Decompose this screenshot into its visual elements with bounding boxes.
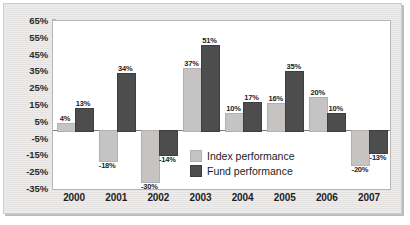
y-axis-tick-label: -35% <box>26 183 48 194</box>
legend-swatch-fund-icon <box>190 165 202 177</box>
bar-group: 4%13% <box>53 21 95 189</box>
bar-value-label: 10% <box>321 104 351 113</box>
bar-value-label: 20% <box>303 88 333 97</box>
bar-value-label: 35% <box>279 62 309 71</box>
bar-value-label: -13% <box>363 153 393 162</box>
bar-value-label: 51% <box>194 36 224 45</box>
bar-fund-2000[interactable] <box>75 108 94 132</box>
bar-index-2001[interactable] <box>99 130 118 162</box>
x-axis-tick-label: 2003 <box>179 192 221 203</box>
bar-fund-2007[interactable] <box>369 130 388 154</box>
bar-fund-2002[interactable] <box>159 130 178 156</box>
bar-group: 20%10% <box>306 21 348 189</box>
legend-item-index: Index performance <box>190 148 295 163</box>
x-axis-tick-label: 2006 <box>306 192 348 203</box>
legend-swatch-index-icon <box>190 150 202 162</box>
x-axis-tick-label: 2004 <box>222 192 264 203</box>
bar-group: -30%-14% <box>137 21 179 189</box>
y-axis-tick-label: -15% <box>26 149 48 160</box>
x-axis-tick-label: 2001 <box>95 192 137 203</box>
y-axis: 65%55%45%35%25%15%5%-5%-15%-25%-35% <box>4 20 52 190</box>
bar-value-label: -30% <box>134 182 164 191</box>
bar-group: -18%34% <box>95 21 137 189</box>
legend-label-index: Index performance <box>207 150 295 162</box>
bar-chart-figure: 65%55%45%35%25%15%5%-5%-15%-25%-35% 4%13… <box>0 0 410 225</box>
bar-fund-2004[interactable] <box>243 102 262 133</box>
legend-label-fund: Fund performance <box>207 165 293 177</box>
bar-index-2003[interactable] <box>183 68 202 132</box>
x-axis-tick-label: 2007 <box>348 192 390 203</box>
y-axis-tick-label: -5% <box>31 132 48 143</box>
bar-value-label: -14% <box>152 155 182 164</box>
y-axis-tick-label: 65% <box>29 15 48 26</box>
x-axis: 20002001200220032004200520062007 <box>53 192 390 208</box>
y-axis-tick-label: -25% <box>26 166 48 177</box>
bar-value-label: 34% <box>110 64 140 73</box>
y-axis-tick-label: 15% <box>29 99 48 110</box>
bar-fund-2005[interactable] <box>285 71 304 132</box>
bar-index-2006[interactable] <box>309 97 328 133</box>
bar-fund-2003[interactable] <box>201 45 220 133</box>
x-axis-tick-label: 2005 <box>264 192 306 203</box>
bar-fund-2006[interactable] <box>327 113 346 132</box>
y-axis-tick-label: 25% <box>29 82 48 93</box>
legend-item-fund: Fund performance <box>190 163 295 178</box>
y-axis-tick-label: 45% <box>29 48 48 59</box>
y-axis-tick-label: 55% <box>29 31 48 42</box>
x-axis-tick-label: 2002 <box>137 192 179 203</box>
y-axis-tick-label: 35% <box>29 65 48 76</box>
bar-index-2000[interactable] <box>57 123 76 132</box>
bar-index-2004[interactable] <box>225 113 244 132</box>
bar-group: -20%-13% <box>348 21 390 189</box>
y-axis-tick-label: 5% <box>34 115 48 126</box>
chart-legend: Index performance Fund performance <box>190 148 295 178</box>
bar-index-2005[interactable] <box>267 103 286 132</box>
bar-value-label: 13% <box>68 99 98 108</box>
bar-fund-2001[interactable] <box>117 73 136 132</box>
x-axis-tick-label: 2000 <box>53 192 95 203</box>
bar-value-label: -20% <box>345 165 375 174</box>
bar-value-label: -18% <box>92 161 122 170</box>
